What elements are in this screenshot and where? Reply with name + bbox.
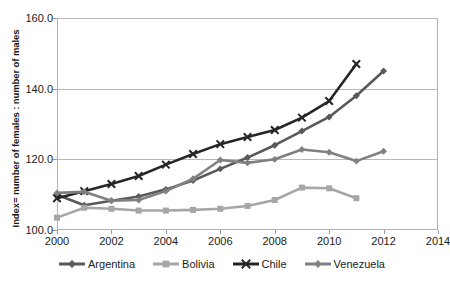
data-point-marker [380, 148, 387, 155]
data-point-marker [353, 158, 360, 165]
data-point-marker [244, 159, 251, 166]
legend-marker-diamond-icon [58, 258, 86, 270]
data-point-marker [325, 97, 333, 105]
data-point-marker [81, 205, 87, 211]
y-axis-tick-label: 160.0 [25, 12, 53, 24]
data-point-marker [272, 197, 278, 203]
data-point-marker [326, 149, 333, 156]
x-axis-tick-label: 2004 [154, 235, 178, 247]
data-point-marker [108, 197, 115, 204]
data-point-marker [108, 206, 114, 212]
x-axis-tick-mark [438, 230, 439, 234]
legend-label: Chile [262, 258, 287, 270]
x-axis-tick-mark [220, 230, 221, 234]
data-point-marker [326, 185, 332, 191]
series-venezuela [54, 146, 387, 204]
data-point-marker [353, 60, 361, 68]
plot-area: 160.0140.0120.0100.0 2000200220042006200… [57, 18, 438, 230]
y-axis-tick-label: 120.0 [25, 153, 53, 165]
legend-label: Argentina [88, 258, 135, 270]
series-line [57, 64, 356, 198]
x-axis-tick-mark [166, 230, 167, 234]
series-layer [57, 18, 438, 230]
legend-label: Venezuela [334, 258, 385, 270]
x-axis-tick-label: 2012 [371, 235, 395, 247]
y-axis-title: Index= number of females : number of mal… [10, 11, 21, 247]
legend-marker-diamond-icon [304, 258, 332, 270]
x-axis-tick-mark [384, 230, 385, 234]
data-point-marker [190, 207, 196, 213]
x-axis-tick-label: 2014 [426, 235, 450, 247]
chart-legend: ArgentinaBoliviaChileVenezuela [0, 258, 443, 270]
legend-label: Bolivia [182, 258, 214, 270]
data-point-marker [271, 156, 278, 163]
x-axis-tick-label: 2010 [317, 235, 341, 247]
y-axis-tick-label: 140.0 [25, 83, 53, 95]
legend-entry-chile[interactable]: Chile [232, 258, 287, 270]
data-point-marker [136, 208, 142, 214]
data-point-marker [353, 195, 359, 201]
legend-marker-x-icon [232, 258, 260, 270]
x-axis-tick-mark [329, 230, 330, 234]
data-point-marker [217, 206, 223, 212]
x-axis-tick-mark [275, 230, 276, 234]
x-axis-tick-label: 2000 [45, 235, 69, 247]
legend-entry-bolivia[interactable]: Bolivia [152, 258, 214, 270]
x-axis-tick-mark [57, 230, 58, 234]
x-axis-tick-label: 2008 [262, 235, 286, 247]
data-point-marker [54, 215, 60, 221]
data-point-marker [245, 203, 251, 209]
legend-marker-square-icon [152, 258, 180, 270]
x-axis-tick-label: 2006 [208, 235, 232, 247]
legend-entry-venezuela[interactable]: Venezuela [304, 258, 385, 270]
data-point-marker [299, 185, 305, 191]
legend-entry-argentina[interactable]: Argentina [58, 258, 135, 270]
x-axis-tick-mark [111, 230, 112, 234]
series-chile [53, 60, 360, 202]
x-axis-tick-label: 2002 [99, 235, 123, 247]
data-point-marker [298, 146, 305, 153]
data-point-marker [163, 208, 169, 214]
